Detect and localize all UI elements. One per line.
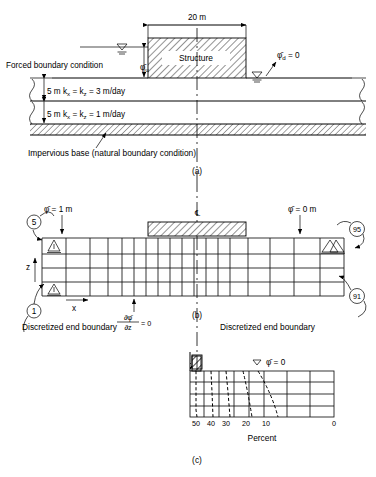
percent-axis-title: Percent	[248, 433, 278, 443]
end-boundary-left-label: Discretized end boundary	[22, 322, 118, 332]
layer2-label: 5 m kx = kz = 1 m/day	[47, 110, 126, 120]
node-callout-5: 5	[27, 212, 54, 240]
support-icon-bottom-left	[47, 284, 61, 295]
figure-root: 20 m φ̄u Forced boundary condition Struc…	[0, 0, 376, 477]
support-icon-top-right	[321, 240, 345, 253]
panel-a: 20 m φ̄u Forced boundary condition Struc…	[6, 13, 366, 178]
structure-label: Structure	[179, 53, 213, 63]
break-symbol-left-lower	[30, 102, 35, 124]
panel-c-drawing	[190, 365, 334, 417]
phi-d-leader	[266, 62, 276, 76]
axis-z-label: z	[26, 263, 30, 272]
node-label-91: 91	[353, 292, 361, 301]
panel-b-caption: (b)	[192, 310, 202, 320]
phi-d-label: φ̄d = 0	[277, 51, 300, 61]
finite-element-mesh	[42, 238, 344, 296]
panel-c-caption: (c)	[192, 455, 202, 465]
percent-axis: 50 40 30 20 10 0 Percent	[192, 419, 336, 443]
break-symbol-left-upper	[30, 79, 35, 101]
panel-b: ℄ φ̄ = 1 m φ̄ = 0 m	[22, 178, 366, 332]
percent-tick-30: 30	[222, 419, 230, 428]
break-symbol-right-lower	[360, 102, 365, 124]
percent-tick-10: 10	[262, 419, 270, 428]
node-label-5: 5	[32, 218, 37, 227]
dimension-label: 20 m	[188, 13, 206, 22]
water-table-icon-downstream	[252, 72, 262, 82]
panel-a-caption: (a)	[192, 166, 202, 176]
derivative-equals: = 0	[141, 319, 151, 328]
node-label-1: 1	[32, 307, 37, 316]
impervious-base-hatch	[30, 124, 366, 135]
impervious-base-label: Impervious base (natural boundary condit…	[28, 148, 196, 158]
water-table-icon-panel-c	[253, 360, 261, 365]
derivative-numerator: ∂φ̄	[124, 313, 133, 322]
layer1-label: 5 m kx = kz = 3 m/day	[47, 87, 126, 97]
derivative-bc-label: ∂φ̄ ∂z = 0	[117, 313, 151, 332]
forced-bc-label: Forced boundary condition	[6, 61, 103, 70]
axis-x-label: x	[72, 304, 76, 313]
node-label-95: 95	[353, 225, 361, 234]
break-symbol-right-upper	[360, 79, 365, 101]
phi-left-label: φ̄ = 1 m	[44, 205, 72, 214]
panel-c-top-hatch	[190, 365, 192, 371]
phi-right-label: φ̄ = 0 m	[288, 205, 316, 214]
percent-tick-40: 40	[207, 419, 215, 428]
percent-tick-50: 50	[192, 419, 200, 428]
end-boundary-right-label: Discretized end boundary	[220, 322, 316, 332]
water-table-icon-upstream	[117, 44, 127, 54]
derivative-denominator: ∂z	[124, 323, 132, 332]
support-icon-top-left	[47, 240, 61, 253]
seepage-figure: 20 m φ̄u Forced boundary condition Struc…	[0, 0, 376, 477]
panel-c-phi-zero-label: φ̄ = 0	[266, 358, 286, 367]
panel-c-structure-stub	[192, 356, 201, 371]
panel-c: φ̄ = 0 50 40 30 20 10 0 Percent (c)	[190, 332, 336, 465]
structure-footprint	[148, 222, 246, 236]
percent-tick-20: 20	[242, 419, 250, 428]
node-callout-95: 95	[337, 221, 365, 248]
centerline-symbol: ℄	[194, 209, 201, 218]
percent-tick-0: 0	[332, 419, 336, 428]
